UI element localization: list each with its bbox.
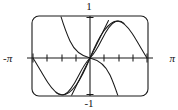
graph-figure: 1 -1 -π π bbox=[0, 0, 178, 110]
plot-canvas bbox=[0, 0, 178, 110]
y-max-label: 1 bbox=[0, 1, 178, 12]
x-min-label: -π bbox=[3, 53, 12, 64]
y-min-label: -1 bbox=[0, 98, 178, 109]
x-max-label: π bbox=[169, 53, 175, 64]
